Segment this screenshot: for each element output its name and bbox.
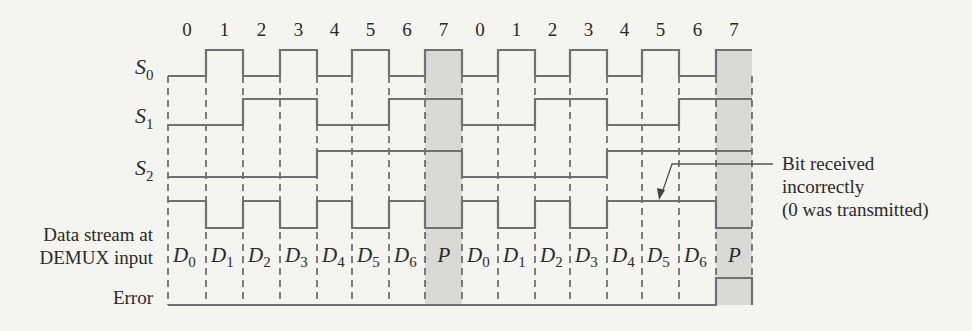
signal-labels: S0S1S2 xyxy=(135,54,154,184)
data-slot-label: D4 xyxy=(611,243,635,270)
signal-label-S1: S1 xyxy=(135,103,154,132)
data-slot-label: D5 xyxy=(356,243,380,270)
slot-number: 6 xyxy=(402,19,412,40)
row-labels: Data stream at DEMUX input Error xyxy=(40,224,154,308)
data-slot-label: P xyxy=(437,243,451,267)
slot-number: 2 xyxy=(548,19,558,40)
signal-label-S2: S2 xyxy=(135,155,154,184)
slot-number: 3 xyxy=(584,19,594,40)
slot-number: 5 xyxy=(656,19,666,40)
timing-diagram: 0123456701234567 S0S1S2 D0D1D2D3D4D5D6PD… xyxy=(0,0,972,331)
signal-label-S0: S0 xyxy=(135,54,154,83)
data-slot-label: D4 xyxy=(321,243,345,270)
slot-number: 2 xyxy=(257,19,267,40)
slot-number-row: 0123456701234567 xyxy=(182,19,739,40)
slot-number: 3 xyxy=(294,19,304,40)
data-slot-label: D0 xyxy=(466,243,490,270)
annotation-line3: (0 was transmitted) xyxy=(782,199,929,221)
data-slot-label: P xyxy=(727,243,741,267)
annotation-line1: Bit received xyxy=(782,153,875,174)
slot-number: 7 xyxy=(729,19,739,40)
error-label: Error xyxy=(113,287,154,308)
slot-number: 1 xyxy=(512,19,522,40)
data-slot-label: D2 xyxy=(247,243,271,270)
slot-number: 0 xyxy=(182,19,192,40)
data-slot-label: D0 xyxy=(172,243,196,270)
slot-number: 5 xyxy=(366,19,376,40)
slot-number: 4 xyxy=(620,19,630,40)
slot-number: 6 xyxy=(693,19,703,40)
data-slot-label: D5 xyxy=(646,243,670,270)
data-stream-label-line2: DEMUX input xyxy=(40,247,154,268)
data-slot-label: D1 xyxy=(502,243,526,270)
data-slot-label: D6 xyxy=(393,243,417,270)
arrow-icon xyxy=(657,188,665,200)
data-slot-label: D3 xyxy=(284,243,308,270)
annotation-line2: incorrectly xyxy=(782,176,865,197)
slot-number: 0 xyxy=(475,19,485,40)
data-slot-label: D6 xyxy=(683,243,707,270)
data-stream-label-line1: Data stream at xyxy=(43,224,153,245)
data-slot-label: D2 xyxy=(539,243,563,270)
error-annotation: Bit received incorrectly (0 was transmit… xyxy=(657,153,929,221)
slot-number: 1 xyxy=(220,19,230,40)
slot-number: 7 xyxy=(439,19,449,40)
data-slot-label: D3 xyxy=(574,243,598,270)
data-slot-label: D1 xyxy=(210,243,234,270)
slot-number: 4 xyxy=(330,19,340,40)
